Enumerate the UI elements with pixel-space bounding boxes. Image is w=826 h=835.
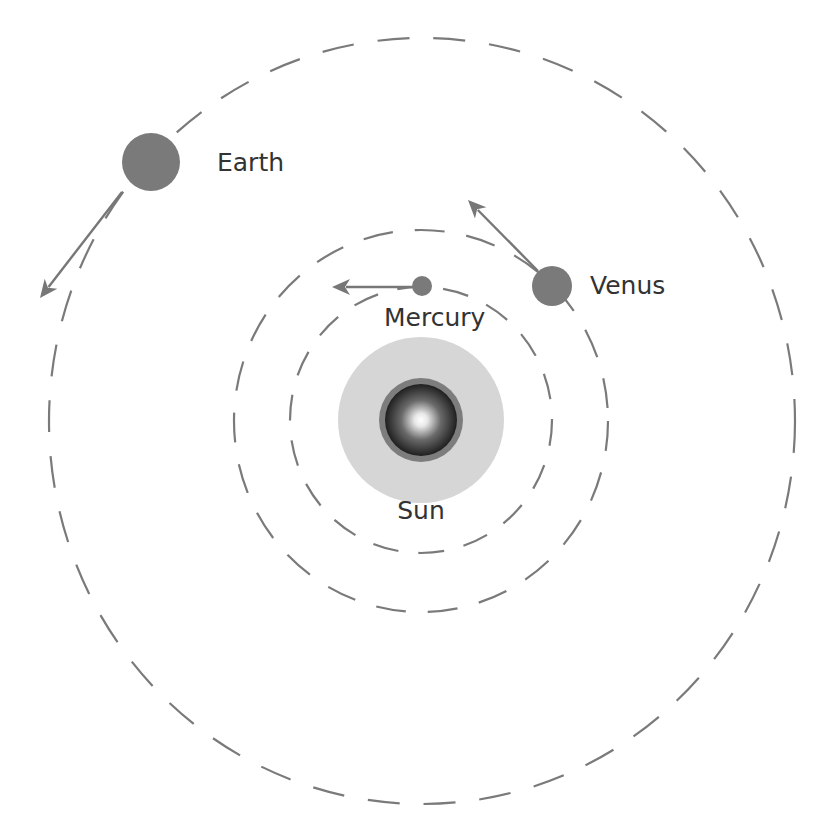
earth-body (122, 133, 180, 191)
planets-group: MercuryVenusEarth (40, 133, 665, 332)
planet-earth: Earth (40, 133, 284, 298)
sun: Sun (338, 337, 504, 525)
earth-motion-arrow-icon (40, 192, 122, 298)
planet-venus: Venus (468, 200, 665, 306)
mercury-label: Mercury (384, 303, 486, 332)
venus-body (532, 266, 572, 306)
mercury-body (412, 276, 432, 296)
sun-label: Sun (397, 496, 445, 525)
sun-core (385, 384, 457, 456)
mercury-motion-arrow-icon (332, 279, 412, 295)
solar-system-diagram: Sun MercuryVenusEarth (0, 0, 826, 835)
venus-motion-arrow-icon (468, 200, 538, 271)
earth-label: Earth (217, 148, 284, 177)
venus-label: Venus (590, 271, 665, 300)
